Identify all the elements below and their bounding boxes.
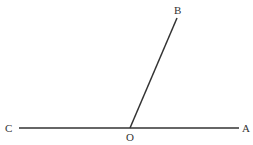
ray-ob [130, 18, 177, 128]
label-a: A [242, 122, 250, 134]
angle-diagram: C O A B [0, 0, 253, 145]
label-o: O [126, 131, 134, 143]
label-b: B [174, 4, 181, 16]
label-c: C [5, 122, 12, 134]
